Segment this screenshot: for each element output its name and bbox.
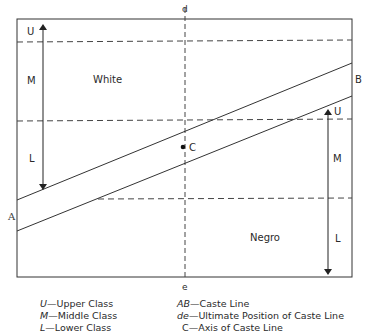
legend-item: L—Lower Class — [40, 322, 117, 334]
label-e: e — [182, 282, 188, 292]
legend-item: C—Axis of Caste Line — [177, 322, 344, 334]
legend-item: de—Ultimate Position of Caste Line — [177, 310, 344, 322]
negro-middle-lower-boundary — [98, 198, 352, 199]
white-label-l: L — [29, 153, 35, 164]
label-d: d — [182, 4, 188, 14]
negro-label-l: L — [335, 233, 341, 244]
point-b-label: B — [355, 74, 362, 85]
legend-item: M—Middle Class — [40, 310, 117, 322]
legend-left: U—Upper Class M—Middle Class L—Lower Cla… — [40, 298, 117, 334]
white-label-m: M — [27, 75, 36, 86]
negro-label-u: U — [334, 106, 341, 117]
negro-label-m: M — [333, 153, 342, 164]
point-c-label: C — [189, 142, 196, 153]
white-label-u: U — [27, 26, 34, 37]
legend-item: U—Upper Class — [40, 298, 117, 310]
axis-point-c — [181, 145, 186, 150]
caste-class-diagram: d e U M L White Negro U M L A B C — [0, 0, 369, 336]
region-negro-label: Negro — [250, 232, 280, 243]
legend-right: AB—Caste Line de—Ultimate Position of Ca… — [177, 298, 344, 334]
point-a-label: A — [7, 211, 16, 222]
region-white-label: White — [93, 74, 122, 85]
legend-item: AB—Caste Line — [177, 298, 344, 310]
